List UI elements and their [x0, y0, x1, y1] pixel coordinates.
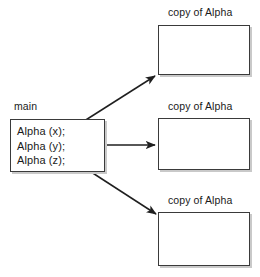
main-code-block: Alpha (x); Alpha (y); Alpha (z); — [11, 120, 104, 168]
function-call-diagram: main Alpha (x); Alpha (y); Alpha (z); co… — [0, 0, 260, 277]
copy-box — [158, 118, 250, 170]
main-box-label: main — [14, 100, 37, 112]
main-box: Alpha (x); Alpha (y); Alpha (z); — [10, 119, 105, 172]
copy-box — [158, 212, 250, 266]
copy-box — [158, 25, 250, 75]
copy-box-label: copy of Alpha — [168, 6, 232, 18]
copy-box-label: copy of Alpha — [168, 194, 232, 206]
code-line: Alpha (x); — [17, 124, 104, 139]
copy-box-label: copy of Alpha — [168, 100, 232, 112]
code-line: Alpha (z); — [17, 153, 104, 168]
code-line: Alpha (y); — [17, 139, 104, 154]
